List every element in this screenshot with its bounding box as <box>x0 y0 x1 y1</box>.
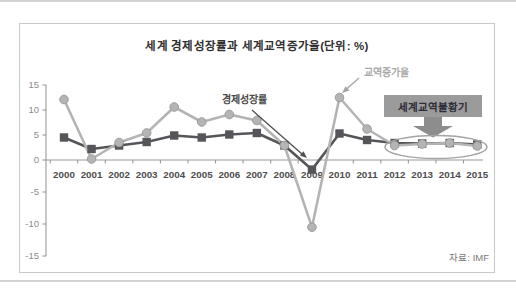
recession-callout: 세계교역불황기 <box>384 95 487 159</box>
trade-growth-marker <box>170 103 179 112</box>
trade-growth-marker <box>197 118 206 127</box>
x-tick-label: 2001 <box>81 169 103 180</box>
recession-callout-label: 세계교역불황기 <box>398 101 468 113</box>
gdp-growth-marker <box>87 145 95 153</box>
source-label: 자료: IMF <box>449 252 489 263</box>
y-tick-label: 10 <box>28 104 39 115</box>
trade-growth-marker <box>87 155 96 164</box>
trade-series-label: 교역증가율 <box>364 66 409 78</box>
x-tick-label: 2000 <box>53 169 75 180</box>
trade-growth-marker <box>418 140 427 149</box>
chart-canvas: 151050-5-10-15 2000200120022003200420052… <box>0 0 516 295</box>
y-tick-label: -15 <box>25 250 39 261</box>
trade-label-annotation: 교역증가율 <box>342 66 409 93</box>
x-tick-label: 2004 <box>163 169 185 180</box>
gdp-growth-marker <box>363 136 371 144</box>
gdp-growth-line <box>64 133 477 170</box>
trade-growth-marker <box>142 129 151 138</box>
trade-growth-marker <box>473 142 482 151</box>
x-tick-label: 2011 <box>356 169 378 180</box>
gdp-growth-marker <box>60 133 68 141</box>
x-tick-label: 2005 <box>191 169 213 180</box>
x-axis: 2000200120022003200420052006200720082009… <box>46 160 489 180</box>
x-tick-label: 2015 <box>466 169 488 180</box>
y-tick-label: 15 <box>28 79 39 90</box>
gdp-series-label: 경제성장률 <box>222 93 267 105</box>
x-tick-label: 2014 <box>439 169 461 180</box>
trade-growth-marker <box>335 93 344 102</box>
y-tick-label: -10 <box>25 218 39 229</box>
gdp-growth-marker <box>308 165 316 173</box>
x-tick-label: 2013 <box>411 169 433 180</box>
x-tick-label: 2003 <box>136 169 158 180</box>
trade-growth-marker <box>115 138 124 147</box>
y-tick-label: 0 <box>34 154 39 165</box>
gdp-growth-marker <box>170 131 178 139</box>
trade-growth-marker <box>363 125 372 134</box>
trade-growth-marker <box>280 141 289 150</box>
gdp-growth-marker <box>225 130 233 138</box>
down-arrow-icon <box>413 117 453 138</box>
x-tick-label: 2012 <box>384 169 406 180</box>
x-tick-label: 2010 <box>329 169 351 180</box>
trade-growth-marker <box>308 223 317 232</box>
recession-ellipse <box>385 136 487 159</box>
x-tick-label: 2007 <box>246 169 268 180</box>
trade-growth-marker <box>225 110 234 119</box>
gdp-growth-marker <box>198 133 206 141</box>
trade-growth-marker <box>445 139 454 148</box>
y-tick-label: -5 <box>31 186 39 197</box>
x-tick-label: 2002 <box>108 169 130 180</box>
trade-label-arrow-icon <box>346 78 359 90</box>
y-axis: 151050-5-10-15 <box>25 79 46 261</box>
y-tick-label: 5 <box>34 129 39 140</box>
trade-growth-marker <box>390 141 399 150</box>
gdp-growth-marker <box>142 138 150 146</box>
trade-growth-marker <box>60 95 69 104</box>
gdp-growth-marker <box>253 129 261 137</box>
gdp-growth-marker <box>335 129 343 137</box>
x-tick-label: 2006 <box>218 169 240 180</box>
